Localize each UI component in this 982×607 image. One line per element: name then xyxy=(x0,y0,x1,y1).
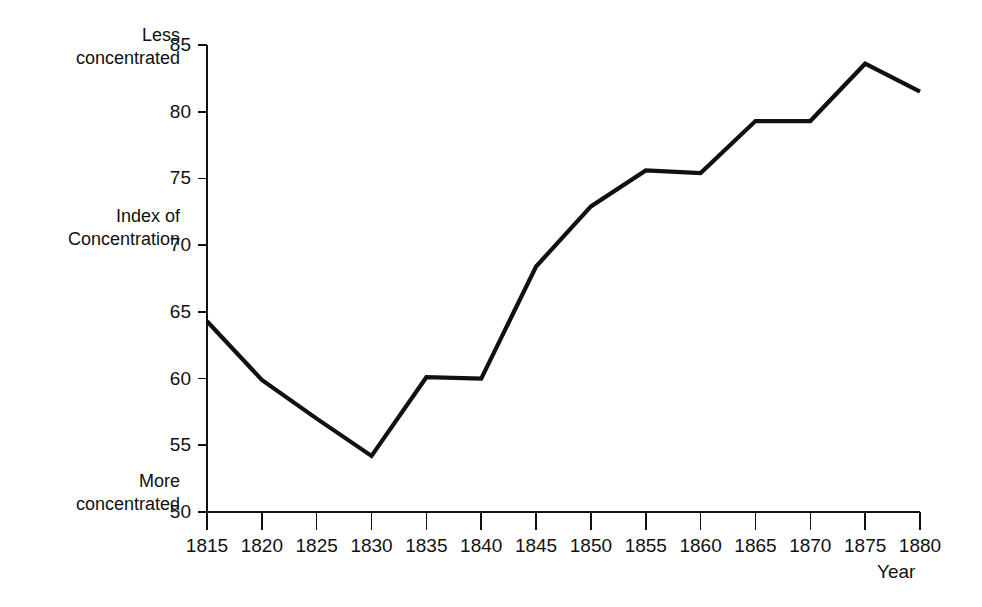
x-tick-label: 1840 xyxy=(460,535,502,556)
x-tick-label: 1820 xyxy=(241,535,283,556)
annotation-less-concentrated-line1: Less xyxy=(142,25,180,45)
annotation-more-concentrated-line1: More xyxy=(139,471,180,491)
x-tick-label: 1855 xyxy=(625,535,667,556)
x-tick-label: 1860 xyxy=(679,535,721,556)
x-tick-label: 1830 xyxy=(350,535,392,556)
x-axis-title: Year xyxy=(877,561,916,582)
x-tick-label: 1845 xyxy=(515,535,557,556)
line-chart: 5055606570758085 18151820182518301835184… xyxy=(0,0,982,607)
annotation-more-concentrated-line2: concentrated xyxy=(76,494,180,514)
y-axis-title-line1: Index of xyxy=(116,206,181,226)
x-tick-label: 1850 xyxy=(570,535,612,556)
data-series-line xyxy=(207,64,920,456)
x-tick-label: 1825 xyxy=(296,535,338,556)
x-tick-label: 1875 xyxy=(844,535,886,556)
y-tick-label: 80 xyxy=(170,101,191,122)
y-tick-label: 65 xyxy=(170,301,191,322)
x-tick-label: 1835 xyxy=(405,535,447,556)
x-tick-label: 1815 xyxy=(186,535,228,556)
x-tick-label: 1865 xyxy=(734,535,776,556)
x-tick-label: 1880 xyxy=(899,535,941,556)
y-tick-label: 60 xyxy=(170,368,191,389)
x-axis-ticks: 1815182018251830183518401845185018551860… xyxy=(186,512,941,556)
axes-group xyxy=(207,45,920,512)
chart-container: 5055606570758085 18151820182518301835184… xyxy=(0,0,982,607)
y-axis-title-line2: Concentration xyxy=(68,229,180,249)
annotation-less-concentrated-line2: concentrated xyxy=(76,48,180,68)
y-axis-ticks: 5055606570758085 xyxy=(170,34,207,522)
y-tick-label: 75 xyxy=(170,167,191,188)
y-tick-label: 55 xyxy=(170,434,191,455)
x-tick-label: 1870 xyxy=(789,535,831,556)
